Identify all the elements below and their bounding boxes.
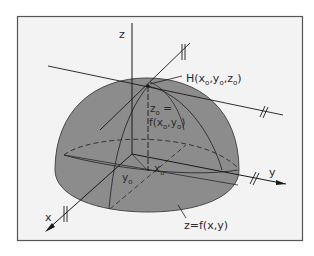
- x-axis-label: x: [45, 211, 52, 224]
- point-H: [146, 84, 150, 88]
- z-axis-label: z: [119, 28, 125, 41]
- diagram-canvas: z x y H(xo,yo,zo) zo = f(xo,yo) xo yo z=…: [0, 0, 314, 256]
- surface-label: z=f(x,y): [184, 219, 228, 232]
- y-axis-label: y: [269, 166, 276, 179]
